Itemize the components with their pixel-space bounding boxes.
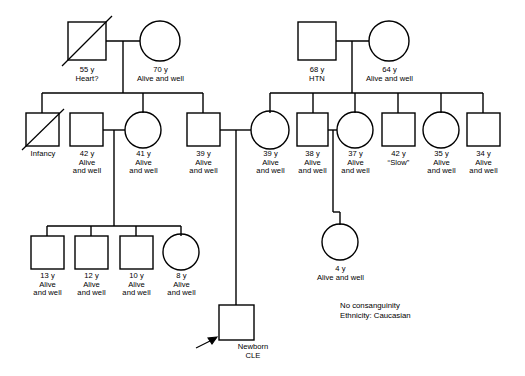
symbol-male-g3-m-10[interactable]	[120, 236, 153, 269]
symbol-male-g2-m-39[interactable]	[187, 113, 220, 146]
pedigree-chart: 55 y Heart? 70 y Alive and well 68 y HTN…	[0, 0, 525, 376]
symbol-female-g1-f2[interactable]	[369, 21, 409, 61]
symbol-female-g3-f-4[interactable]	[322, 224, 358, 260]
symbol-female-g2-f-37[interactable]	[337, 112, 373, 148]
symbol-female-g1-f1[interactable]	[140, 21, 180, 61]
label-g3-f-8: 8 y Alive and well	[152, 272, 211, 298]
label-g3-proband: Newborn CLE	[222, 343, 284, 360]
symbol-female-g2-f-39[interactable]	[251, 111, 289, 149]
symbol-female-g2-f-41[interactable]	[125, 112, 161, 148]
symbol-male-g2-m-34[interactable]	[467, 113, 500, 146]
deceased-slash-g2-infancy	[22, 109, 64, 150]
symbol-male-g3-m-12[interactable]	[75, 236, 108, 269]
label-g2-m-39: 39 y Alive and well	[174, 150, 233, 176]
proband-arrow-head-icon	[208, 337, 217, 344]
symbol-male-g2-m-38[interactable]	[297, 113, 328, 146]
label-g2-m-42: 42 y Alive and well	[57, 150, 117, 176]
label-g2-m-34: 34 y Alive and well	[454, 150, 513, 176]
label-g1-f1: 70 y Alive and well	[113, 66, 208, 83]
note-consanguinity: No consanguinity	[340, 301, 500, 311]
symbol-male-g2-m-42b[interactable]	[382, 113, 415, 146]
deceased-slash-g1-m1	[62, 16, 112, 66]
symbol-male-g2-m-42[interactable]	[70, 113, 103, 146]
symbol-female-g2-f-35[interactable]	[423, 112, 459, 148]
symbol-male-g3-m-13[interactable]	[31, 236, 64, 269]
note-ethnicity: Ethnicity: Caucasian	[340, 311, 515, 321]
symbol-female-g3-f-8[interactable]	[163, 234, 199, 270]
label-g3-f-4: 4 y Alive and well	[292, 265, 389, 282]
symbol-male-g1-m2[interactable]	[298, 22, 336, 60]
symbol-male-g3-proband[interactable]	[219, 305, 254, 340]
label-g1-f2: 64 y Alive and well	[342, 66, 437, 83]
label-g2-f-41: 41 y Alive and well	[114, 150, 173, 176]
